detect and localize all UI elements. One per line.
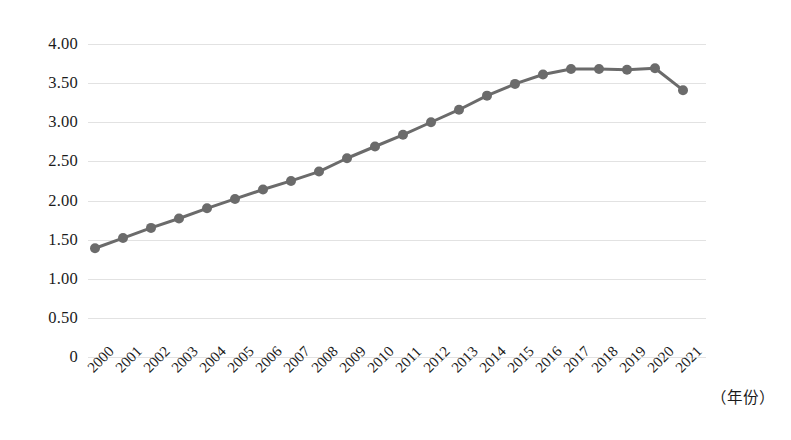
y-axis-tick-label: 2.50 bbox=[48, 153, 78, 170]
y-axis-tick-labels: 4.003.503.002.502.001.501.000.500 bbox=[0, 0, 78, 440]
data-point-marker bbox=[202, 203, 212, 213]
y-axis-tick-label: 0 bbox=[70, 349, 78, 366]
data-point-marker bbox=[286, 176, 296, 186]
data-point-marker bbox=[510, 79, 520, 89]
y-axis-tick-label: 1.00 bbox=[48, 271, 78, 288]
data-point-marker bbox=[118, 233, 128, 243]
y-axis-tick-label: 3.50 bbox=[48, 75, 78, 92]
y-axis-tick-label: 1.50 bbox=[48, 232, 78, 249]
y-axis-tick-label: 0.50 bbox=[48, 310, 78, 327]
data-point-marker bbox=[594, 64, 604, 74]
data-point-marker bbox=[650, 63, 660, 73]
data-point-marker bbox=[482, 91, 492, 101]
series-markers bbox=[90, 63, 688, 253]
line-chart: 4.003.503.002.502.001.501.000.500 200020… bbox=[0, 0, 791, 440]
y-axis-tick-label: 4.00 bbox=[48, 36, 78, 53]
data-point-marker bbox=[370, 142, 380, 152]
data-point-marker bbox=[146, 223, 156, 233]
x-axis-title: （年份） bbox=[711, 385, 775, 407]
data-point-marker bbox=[678, 85, 688, 95]
data-point-marker bbox=[426, 117, 436, 127]
data-point-marker bbox=[622, 65, 632, 75]
y-axis-tick-label: 3.00 bbox=[48, 114, 78, 131]
data-point-marker bbox=[342, 153, 352, 163]
data-point-marker bbox=[174, 213, 184, 223]
data-point-marker bbox=[258, 185, 268, 195]
data-point-marker bbox=[454, 105, 464, 115]
data-point-marker bbox=[398, 130, 408, 140]
data-point-marker bbox=[314, 167, 324, 177]
plot-area bbox=[88, 44, 706, 357]
series-line bbox=[95, 68, 683, 248]
data-point-marker bbox=[90, 243, 100, 253]
data-point-marker bbox=[538, 70, 548, 80]
data-point-marker bbox=[566, 64, 576, 74]
data-series-layer bbox=[88, 44, 706, 357]
data-point-marker bbox=[230, 194, 240, 204]
y-axis-tick-label: 2.00 bbox=[48, 193, 78, 210]
